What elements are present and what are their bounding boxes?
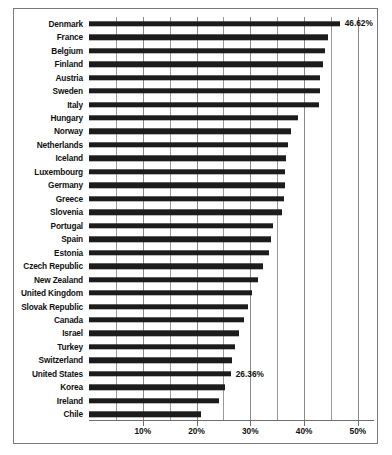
category-label: Portugal: [51, 222, 83, 230]
x-axis-line: [89, 420, 374, 421]
bar: [89, 290, 252, 295]
bar-row: Canada: [89, 313, 374, 326]
bar: [89, 331, 239, 336]
bar-row: Estonia: [89, 246, 374, 259]
bar-row: Belgium: [89, 44, 374, 57]
bar: [89, 61, 323, 66]
bar-row: Switzerland: [89, 354, 374, 367]
bar: [89, 277, 258, 282]
bar: [89, 169, 285, 174]
category-label: Ireland: [57, 397, 83, 405]
bar: [89, 263, 263, 268]
bar-row: Portugal: [89, 219, 374, 232]
bar: [89, 236, 271, 241]
bar: [89, 183, 285, 188]
bar: 46.62%: [89, 21, 340, 26]
bar-row: United States26.36%: [89, 367, 374, 380]
bar-row: Chile: [89, 408, 374, 421]
category-label: Turkey: [57, 343, 83, 351]
bar-rows: Denmark46.62%FranceBelgiumFinlandAustria…: [89, 17, 374, 421]
bar-row: Austria: [89, 71, 374, 84]
bar-row: Luxembourg: [89, 165, 374, 178]
category-label: Luxembourg: [34, 168, 83, 176]
bar-row: Netherlands: [89, 138, 374, 151]
bar: [89, 156, 286, 161]
bar: [89, 304, 248, 309]
bar: [89, 142, 288, 147]
category-label: Israel: [62, 329, 83, 337]
category-label: Switzerland: [39, 356, 83, 364]
bar: [89, 223, 273, 228]
bar-row: Italy: [89, 98, 374, 111]
bar-row: Israel: [89, 327, 374, 340]
x-tick-label: 50%: [350, 427, 367, 435]
bar-row: Spain: [89, 232, 374, 245]
category-label: Czech Republic: [23, 262, 83, 270]
bar: 26.36%: [89, 371, 231, 376]
category-label: Norway: [54, 127, 83, 135]
figure: Denmark46.62%FranceBelgiumFinlandAustria…: [0, 0, 392, 455]
category-label: United Kingdom: [21, 289, 83, 297]
bar: [89, 412, 201, 417]
category-label: New Zealand: [34, 275, 83, 283]
bar-row: New Zealand: [89, 273, 374, 286]
plot-area: Denmark46.62%FranceBelgiumFinlandAustria…: [89, 17, 374, 421]
category-label: Canada: [54, 316, 83, 324]
bar: [89, 250, 269, 255]
bar-row: Greece: [89, 192, 374, 205]
chart-frame: Denmark46.62%FranceBelgiumFinlandAustria…: [13, 8, 378, 444]
bar-row: United Kingdom: [89, 286, 374, 299]
bar-row: Slovak Republic: [89, 300, 374, 313]
category-label: Korea: [60, 383, 83, 391]
bar: [89, 129, 291, 134]
bar: [89, 115, 298, 120]
bar: [89, 210, 282, 215]
category-label: Iceland: [55, 154, 83, 162]
category-label: Slovak Republic: [21, 302, 83, 310]
bar: [89, 102, 319, 107]
bar-row: Sweden: [89, 84, 374, 97]
category-label: Spain: [61, 235, 83, 243]
bar-row: Czech Republic: [89, 259, 374, 272]
bar: [89, 88, 320, 93]
category-label: Germany: [48, 181, 83, 189]
bar: [89, 398, 219, 403]
bar-row: Norway: [89, 125, 374, 138]
bar: [89, 48, 325, 53]
category-label: United States: [32, 370, 83, 378]
bar-value-label: 46.62%: [345, 20, 373, 28]
bar: [89, 344, 235, 349]
bar: [89, 75, 320, 80]
bar-value-label: 26.36%: [236, 370, 264, 378]
category-label: Belgium: [51, 46, 83, 54]
bar-row: France: [89, 30, 374, 43]
x-axis-tick-labels: 10%20%30%40%50%: [89, 427, 374, 441]
x-tick-label: 30%: [242, 427, 259, 435]
category-label: Netherlands: [37, 141, 83, 149]
category-label: Greece: [56, 195, 83, 203]
bar: [89, 385, 225, 390]
bar-row: Denmark46.62%: [89, 17, 374, 30]
x-tick-label: 10%: [134, 427, 151, 435]
bar-row: Korea: [89, 381, 374, 394]
x-tick-label: 20%: [188, 427, 205, 435]
category-label: Slovenia: [50, 208, 83, 216]
category-label: Sweden: [53, 87, 83, 95]
bar: [89, 34, 328, 39]
bar-row: Slovenia: [89, 206, 374, 219]
bar-row: Hungary: [89, 111, 374, 124]
bar: [89, 358, 232, 363]
bar-row: Finland: [89, 57, 374, 70]
bar: [89, 196, 284, 201]
bar-row: Turkey: [89, 340, 374, 353]
category-label: Austria: [55, 73, 83, 81]
category-label: Italy: [67, 100, 83, 108]
category-label: France: [57, 33, 83, 41]
category-label: Finland: [55, 60, 83, 68]
category-label: Hungary: [50, 114, 83, 122]
bar-row: Ireland: [89, 394, 374, 407]
x-tick-label: 40%: [296, 427, 313, 435]
bar-row: Iceland: [89, 152, 374, 165]
category-label: Estonia: [54, 248, 83, 256]
bar: [89, 317, 244, 322]
